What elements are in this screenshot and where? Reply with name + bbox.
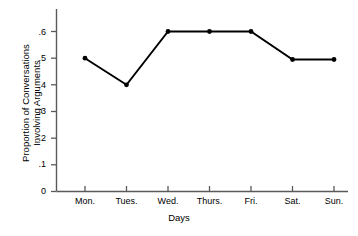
- data-point: [249, 29, 254, 34]
- data-point: [166, 29, 171, 34]
- data-point-markers: [83, 29, 337, 87]
- y-axis-title-line-2: Involving Arguments: [31, 13, 42, 193]
- x-tick-label-sun: Sun.: [308, 196, 358, 206]
- data-point: [83, 56, 88, 61]
- y-axis-title-line-1: Proportion of Conversations: [20, 13, 31, 193]
- data-point: [124, 82, 129, 87]
- y-axis-title: Proportion of Conversations Involving Ar…: [20, 13, 42, 193]
- data-point: [290, 57, 295, 62]
- data-point: [332, 57, 337, 62]
- data-point: [207, 29, 212, 34]
- y-axis-ticks: [51, 32, 57, 192]
- x-axis-ticks: [85, 186, 334, 192]
- x-axis-title: Days: [0, 212, 358, 223]
- line-chart: 0 .1 .2 .3 .4 .5 .6 Mon. Tues. Wed. Thur…: [0, 0, 358, 236]
- data-series-line: [85, 32, 334, 85]
